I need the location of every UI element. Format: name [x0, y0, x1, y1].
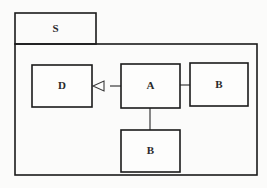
diagram-canvas: S D A B B [0, 0, 267, 188]
class-node-b-bottom[interactable]: B [121, 130, 180, 172]
class-node-b-right[interactable]: B [190, 63, 248, 106]
class-label-a: A [147, 79, 155, 91]
class-label-d: D [58, 79, 66, 91]
class-label-b-bottom: B [147, 144, 155, 156]
package-name-label: S [52, 22, 58, 34]
class-node-a[interactable]: A [121, 64, 180, 108]
class-label-b-right: B [215, 78, 223, 90]
generalization-arrowhead-icon [93, 81, 104, 91]
uml-package-diagram-svg: S D A B B [0, 0, 267, 188]
class-node-d[interactable]: D [32, 65, 92, 107]
